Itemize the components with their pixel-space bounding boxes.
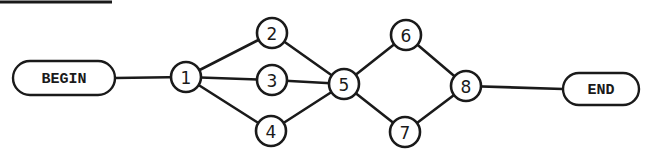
node-1: 1 — [171, 62, 201, 92]
node-label: 7 — [400, 123, 411, 143]
node-6: 6 — [391, 20, 421, 50]
node-label: 1 — [181, 68, 192, 88]
node-label: 6 — [401, 26, 412, 46]
node-8: 8 — [451, 71, 481, 101]
network-diagram: BEGIN END 12345678 — [0, 0, 652, 163]
node-4: 4 — [256, 116, 286, 146]
begin-label: BEGIN — [41, 71, 86, 88]
node-5: 5 — [329, 69, 359, 99]
node-label: 5 — [339, 75, 350, 95]
end-label: END — [587, 82, 614, 99]
node-7: 7 — [390, 117, 420, 147]
node-label: 3 — [267, 71, 278, 91]
node-label: 2 — [267, 24, 278, 44]
end-terminal: END — [563, 73, 639, 105]
node-3: 3 — [257, 65, 287, 95]
node-label: 4 — [266, 122, 277, 142]
node-2: 2 — [257, 18, 287, 48]
begin-terminal: BEGIN — [13, 61, 115, 95]
node-label: 8 — [461, 77, 472, 97]
